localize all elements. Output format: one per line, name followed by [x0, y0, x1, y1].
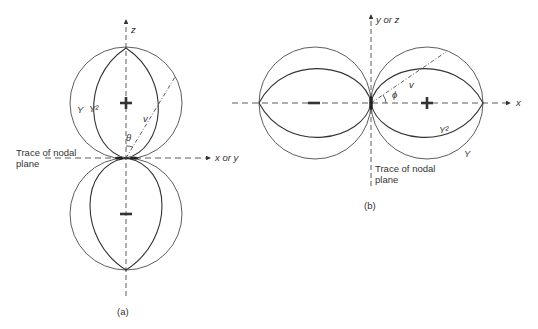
- b-x-axis-label: x: [516, 97, 521, 108]
- b-caption: (b): [364, 200, 376, 211]
- a-theta-label: θ: [126, 132, 131, 143]
- figure-b: [232, 15, 510, 186]
- b-y-or-z-axis-label: y or z: [376, 14, 399, 25]
- radius-v: [371, 52, 446, 103]
- theta-arc: [126, 146, 133, 147]
- b-phi-label: ϕ: [392, 89, 397, 100]
- a-y-label: Y: [77, 104, 83, 115]
- figure-a: [45, 20, 210, 296]
- orbital-diagram: [0, 0, 538, 329]
- b-v-label: v: [409, 79, 414, 90]
- phi-arc: [383, 95, 386, 103]
- b-nodal-plane-label-2: plane: [375, 174, 398, 185]
- a-v-label: v: [143, 113, 148, 124]
- b-y2-label: Y²: [439, 124, 449, 135]
- a-nodal-plane-label-1: Trace of nodal: [16, 147, 76, 158]
- radius-v: [126, 77, 175, 158]
- b-y-label: Y: [464, 148, 470, 159]
- a-z-axis-label: z: [131, 24, 136, 35]
- b-nodal-plane-label-1: Trace of nodal: [375, 163, 435, 174]
- a-y2-label: Y²: [89, 103, 99, 114]
- a-caption: (a): [117, 306, 129, 317]
- a-nodal-plane-label-2: plane: [16, 158, 39, 169]
- a-x-axis-label: x or y: [215, 152, 238, 163]
